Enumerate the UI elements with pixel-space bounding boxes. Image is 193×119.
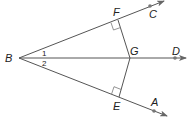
label-e: E	[113, 100, 121, 112]
point-a	[152, 109, 156, 113]
angle-2-label: 2	[42, 59, 47, 68]
label-f: F	[113, 6, 121, 18]
ray-bc	[19, 1, 164, 58]
geometry-diagram: B F C G D E A 1 2	[0, 0, 193, 119]
label-g: G	[130, 45, 139, 57]
label-b: B	[5, 52, 12, 64]
label-d: D	[172, 45, 180, 57]
label-c: C	[149, 8, 157, 20]
segment-fg	[118, 20, 130, 58]
label-a: A	[150, 96, 158, 108]
angle-1-label: 1	[42, 49, 47, 58]
segment-eg	[119, 58, 130, 97]
